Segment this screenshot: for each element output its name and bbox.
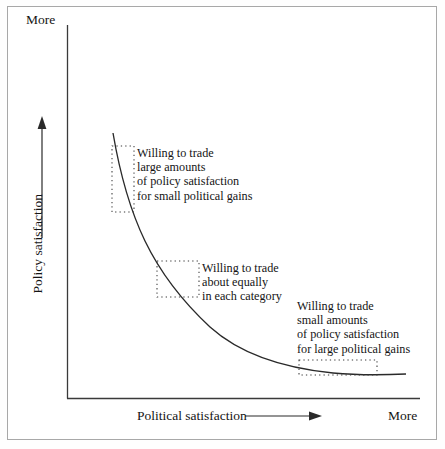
annotation-equal-tradeoff: Willing to trade about equally in each c… [202,261,282,304]
annotation-high-policy-tradeoff: Willing to trade large amounts of policy… [137,146,252,203]
annotation-line: small amounts [297,313,410,327]
tradeoff-box-low-policy [299,360,377,375]
tradeoff-box-equal [157,261,199,297]
annotation-line: about equally [202,275,282,289]
annotation-line: for large political gains [297,342,410,356]
figure-canvas: More More Political satisfaction Policy … [0,0,445,449]
annotation-line: Willing to trade [137,146,252,160]
y-axis-title: Policy satisfaction [31,184,45,304]
annotation-line: large amounts [137,160,252,174]
x-axis-arrow [245,412,322,421]
y-axis-max-label: More [26,13,55,27]
annotation-line: for small political gains [137,189,252,203]
annotation-line: in each category [202,289,282,303]
annotation-low-policy-tradeoff: Willing to trade small amounts of policy… [297,299,410,356]
annotation-line: Willing to trade [202,261,282,275]
annotation-line: of policy satisfaction [297,327,410,341]
x-axis-title: Political satisfaction [137,409,247,423]
plot-graphics [0,0,445,449]
x-axis-max-label: More [388,409,417,423]
annotation-line: Willing to trade [297,299,410,313]
annotation-line: of policy satisfaction [137,174,252,188]
